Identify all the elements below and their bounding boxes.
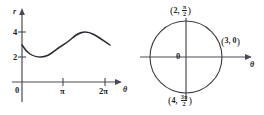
origin-label: 0 [15, 86, 19, 95]
paren-open-top: ( [170, 6, 174, 17]
fraction-denominator: 2 [181, 100, 186, 107]
paren-open-right: ( [221, 37, 225, 48]
y-tick-label-2: 2 [13, 53, 17, 62]
polar-theta-axis-label: θ [250, 61, 254, 69]
rectangular-plot-svg [0, 0, 132, 115]
x-tick-label-2pi: 2π [99, 87, 108, 96]
point-theta-fraction-bottom: 3π 2 [180, 94, 188, 107]
polar-origin-label: 0 [176, 52, 180, 61]
r-axis-label: r [13, 8, 16, 16]
polar-circle-panel: 0 θ ( 2 , π 2 ) ( 3 , 0 ) [132, 0, 264, 115]
point-label-top: ( 2 , π 2 ) [170, 4, 191, 17]
fraction-denominator: 2 [182, 10, 187, 17]
rectangular-plot-panel: r θ 4 2 0 π 2π [0, 0, 132, 115]
y-tick-label-4: 4 [13, 28, 17, 37]
point-theta-fraction-top: π 2 [182, 4, 187, 17]
paren-open-bottom: ( [168, 96, 172, 107]
paren-close-bottom: ) [189, 96, 193, 107]
figure-container: r θ 4 2 0 π 2π 0 θ ( 2 , π [0, 0, 264, 115]
paren-close-right: ) [237, 37, 241, 48]
r-of-theta-curve [22, 32, 110, 57]
point-label-right: ( 3 , 0 ) [221, 36, 240, 47]
theta-axis-arrowhead [115, 79, 122, 85]
theta-axis-label: θ [123, 86, 127, 94]
paren-close-top: ) [187, 6, 191, 17]
polar-circle-svg [132, 0, 264, 115]
point-label-bottom: ( 4 , 3π 2 ) [168, 94, 192, 107]
x-tick-label-pi: π [60, 87, 65, 96]
r-axis-arrowhead [19, 8, 25, 15]
